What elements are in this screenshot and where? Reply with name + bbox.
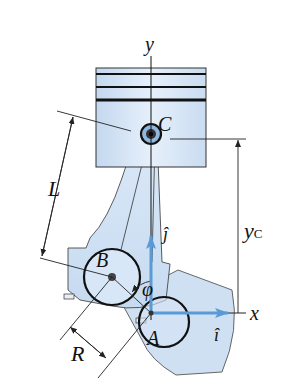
mechanism-diagram: y C L yC ĵ B φ x A î R (0, 0, 283, 388)
y-axis-label: y (145, 34, 154, 54)
r-extension-a (98, 313, 151, 378)
unit-j-label: ĵ (163, 225, 168, 243)
point-a-label: A (147, 328, 159, 348)
y-c-label: yC (244, 220, 262, 242)
length-l-label: L (48, 178, 60, 200)
radius-r-label: R (71, 343, 84, 365)
point-c-label: C (158, 114, 171, 134)
x-axis-label: x (250, 303, 259, 323)
origin-point-a (149, 311, 154, 316)
angle-phi-label: φ (142, 279, 153, 299)
point-b-label: B (96, 250, 108, 270)
diagram-canvas (0, 0, 283, 388)
unit-i-label: î (214, 326, 219, 344)
